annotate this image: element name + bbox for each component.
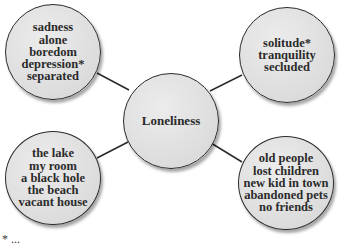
word: no friends: [243, 201, 328, 213]
bubble-top-right-text: solitude* tranquility secluded: [258, 37, 316, 74]
bubble-bottom-left: the lake my room a black hole the beach …: [5, 131, 101, 225]
word: secluded: [258, 61, 316, 73]
word: the lake: [18, 147, 87, 159]
center-label: Loneliness: [142, 115, 201, 127]
bubble-top-right: solitude* tranquility secluded: [239, 7, 335, 103]
bubble-top-left-text: sadness alone boredom depression* separa…: [22, 21, 85, 82]
connector-top-left: [97, 73, 129, 90]
footnote-clipped: * ...: [2, 232, 20, 247]
word: old people: [243, 152, 328, 164]
connector-bottom-right: [211, 143, 242, 162]
word: separated: [22, 70, 85, 82]
connector-bottom-left: [97, 142, 128, 158]
word: sadness: [22, 21, 85, 33]
word: vacant house: [18, 196, 87, 208]
bubble-top-left: sadness alone boredom depression* separa…: [5, 4, 101, 100]
bubble-center: Loneliness: [123, 73, 219, 169]
bubble-bottom-left-text: the lake my room a black hole the beach …: [18, 147, 87, 208]
connector-top-right: [210, 75, 242, 91]
center-word: Loneliness: [142, 115, 201, 127]
bubble-bottom-right: old people lost children new kid in town…: [238, 136, 334, 230]
bubble-bottom-right-text: old people lost children new kid in town…: [243, 152, 328, 213]
